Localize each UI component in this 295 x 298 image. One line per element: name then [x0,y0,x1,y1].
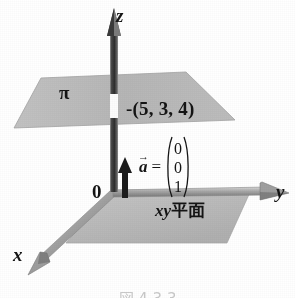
plane-pi-label: π [59,83,69,102]
vector-arrow-accent: → [138,150,149,162]
vector-component-0: 0 [174,139,182,158]
xy-plane-label-prefix: xy [155,201,171,220]
right-paren-icon [183,136,192,198]
vector-name: →a [139,157,148,177]
vector-equation: →a = 0 0 1 [139,136,192,198]
z-axis-label: z [116,6,123,25]
vector-components: 0 0 1 [173,136,183,198]
left-paren-icon [164,136,173,198]
vector-component-2: 1 [174,177,182,196]
x-axis-label: x [13,245,23,264]
origin-label: 0 [92,182,102,201]
y-axis-label: y [276,182,284,201]
point-coordinate-label: -(5, 3, 4) [126,99,194,118]
equals-sign: = [152,157,162,177]
xy-plane-label-suffix: 平面 [171,200,205,220]
vector-component-1: 0 [174,158,182,177]
xy-plane-label: xy平面 [155,202,205,219]
figure-3d-coordinate-system: z y x π -(5, 3, 4) 0 xy平面 →a = 0 0 1 [0,0,295,298]
vector-column-matrix: 0 0 1 [164,136,192,198]
plane-pi-surface [14,72,235,128]
figure-caption: 図 4.3.3 [0,287,295,298]
